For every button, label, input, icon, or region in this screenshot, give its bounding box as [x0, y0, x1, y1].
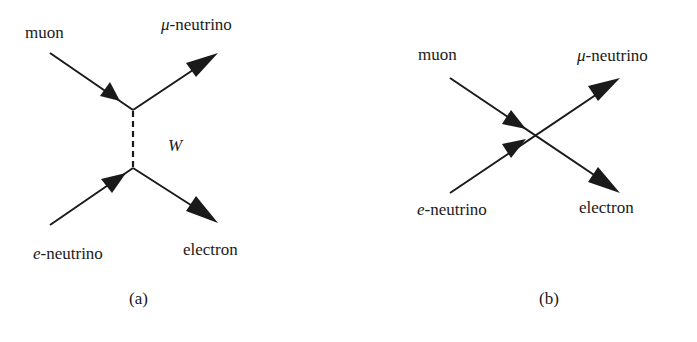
- arrow-head-icon: [502, 110, 526, 129]
- muon-label-a: muon: [25, 23, 64, 42]
- e-neutrino-label-b: e-neutrino: [417, 200, 487, 219]
- diagram-b: muon μ-neutrino e-neutrino electron (b): [417, 45, 648, 308]
- arrow-head-icon: [186, 196, 218, 223]
- electron-line-a: [133, 168, 218, 223]
- feynman-diagrams: muon μ-neutrino W e-neutrino electron (a…: [0, 0, 697, 342]
- electron-label-b: electron: [579, 198, 634, 217]
- e-neutrino-label-a: e-neutrino: [33, 244, 103, 263]
- diagram-a: muon μ-neutrino W e-neutrino electron (a…: [25, 15, 238, 308]
- mu-neutrino-label-b: μ-neutrino: [576, 46, 648, 65]
- e-neutrino-line-a: [50, 168, 133, 225]
- electron-label-a: electron: [183, 240, 238, 259]
- arrow-head-icon: [588, 167, 620, 193]
- muon-line-a: [50, 53, 133, 110]
- caption-a: (a): [129, 289, 148, 308]
- mu-neutrino-line-a: [133, 53, 218, 110]
- mu-neutrino-label-a: μ-neutrino: [160, 15, 232, 34]
- muon-label-b: muon: [418, 45, 457, 64]
- arrow-head-icon: [186, 53, 218, 77]
- arrow-head-icon: [101, 173, 126, 193]
- arrow-head-icon: [100, 82, 120, 101]
- caption-b: (b): [539, 289, 559, 308]
- w-boson-label: W: [168, 136, 184, 155]
